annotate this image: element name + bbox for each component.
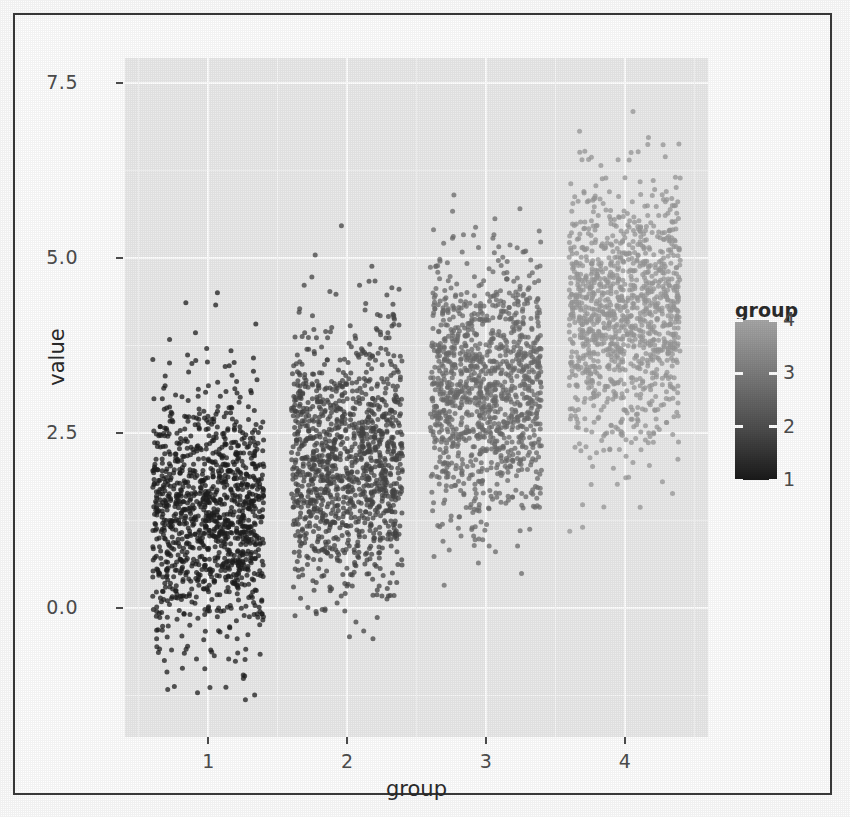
image-frame: 0.02.55.07.5 1234 value group group 4321 bbox=[13, 13, 832, 795]
x-tick-mark bbox=[346, 737, 348, 744]
y-tick-label: 7.5 bbox=[46, 71, 78, 93]
y-tick-mark bbox=[116, 82, 123, 84]
x-tick-label: 1 bbox=[188, 750, 228, 772]
legend-tick-mark bbox=[735, 479, 743, 482]
x-tick-label: 3 bbox=[466, 750, 506, 772]
x-tick-mark bbox=[485, 737, 487, 744]
x-axis-label: group bbox=[125, 777, 708, 801]
x-tick-mark bbox=[207, 737, 209, 744]
y-tick-mark bbox=[116, 257, 123, 259]
y-tick-mark bbox=[116, 607, 123, 609]
y-tick-label: 5.0 bbox=[46, 246, 78, 268]
y-tick-mark bbox=[116, 432, 123, 434]
x-tick-label: 2 bbox=[327, 750, 367, 772]
legend-tick-mark bbox=[769, 425, 777, 428]
y-tick-label: 2.5 bbox=[46, 421, 78, 443]
x-tick-mark bbox=[624, 737, 626, 744]
legend-tick-label: 2 bbox=[783, 415, 795, 437]
legend-tick-mark bbox=[769, 319, 777, 322]
legend-tick-label: 3 bbox=[783, 361, 795, 383]
legend-tick-mark bbox=[769, 372, 777, 375]
legend-tick-mark bbox=[735, 319, 743, 322]
legend: group 4321 bbox=[727, 299, 832, 494]
legend-tick-label: 4 bbox=[783, 308, 795, 330]
scatter-points-layer bbox=[125, 58, 708, 737]
chart-page: 0.02.55.07.5 1234 value group group 4321 bbox=[0, 0, 850, 817]
legend-tick-mark bbox=[735, 425, 743, 428]
y-tick-label: 0.0 bbox=[46, 596, 78, 618]
x-tick-label: 4 bbox=[605, 750, 645, 772]
y-axis-label: value bbox=[45, 297, 69, 417]
plot-panel bbox=[125, 58, 708, 737]
legend-tick-mark bbox=[769, 479, 777, 482]
legend-tick-label: 1 bbox=[783, 468, 795, 490]
legend-colorbar bbox=[735, 320, 777, 480]
legend-tick-mark bbox=[735, 372, 743, 375]
